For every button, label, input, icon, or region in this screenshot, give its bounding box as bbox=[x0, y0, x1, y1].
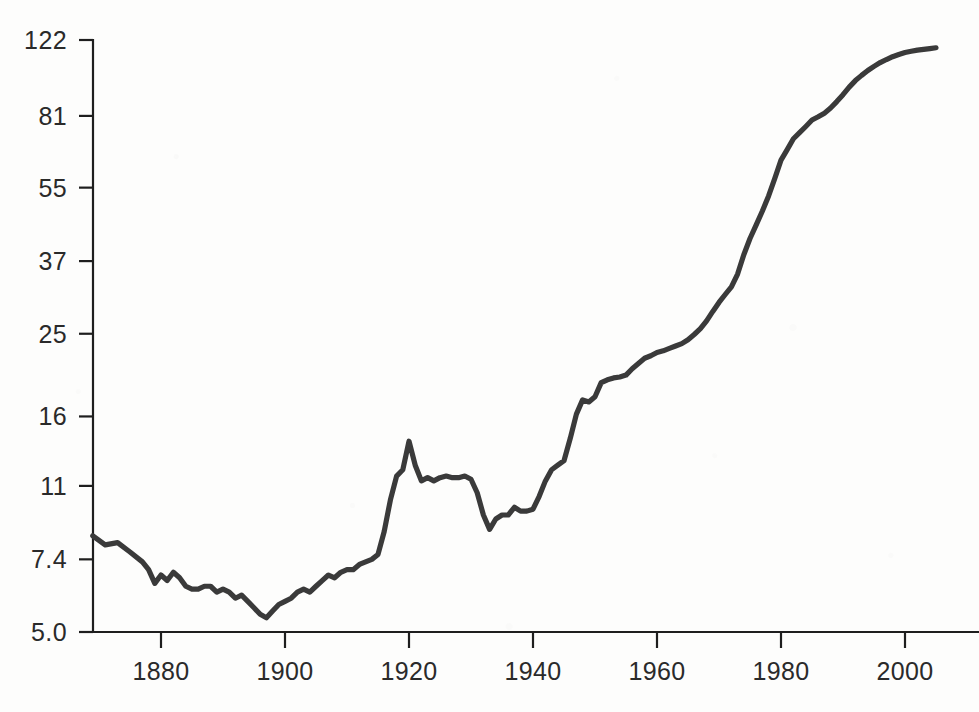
y-tick-label: 81 bbox=[38, 102, 67, 130]
chart-figure: 5.07.4111625375581122 188019001920194019… bbox=[0, 0, 979, 712]
x-tick-label: 1960 bbox=[628, 657, 685, 685]
y-tick-label: 11 bbox=[40, 472, 67, 500]
data-series-group bbox=[93, 48, 936, 618]
x-axis-ticks: 1880190019201940196019802000 bbox=[132, 632, 933, 685]
x-axis-group: 1880190019201940196019802000 bbox=[93, 632, 979, 685]
x-tick-label: 2000 bbox=[876, 657, 933, 685]
y-tick-label: 55 bbox=[38, 174, 67, 202]
x-tick-label: 1980 bbox=[752, 657, 809, 685]
y-tick-label: 7.4 bbox=[31, 545, 67, 573]
y-tick-label: 16 bbox=[38, 402, 67, 430]
y-tick-label: 37 bbox=[38, 247, 67, 275]
x-tick-label: 1900 bbox=[256, 657, 313, 685]
series-line-1 bbox=[93, 48, 936, 618]
y-axis-ticks: 5.07.4111625375581122 bbox=[24, 26, 93, 646]
y-tick-label: 25 bbox=[38, 320, 67, 348]
x-tick-label: 1940 bbox=[504, 657, 561, 685]
y-tick-label: 122 bbox=[24, 26, 67, 54]
y-tick-label: 5.0 bbox=[31, 618, 67, 646]
line-chart-plot: 5.07.4111625375581122 188019001920194019… bbox=[0, 0, 979, 712]
y-axis-group: 5.07.4111625375581122 bbox=[24, 26, 93, 646]
x-tick-label: 1920 bbox=[380, 657, 437, 685]
x-tick-label: 1880 bbox=[132, 657, 189, 685]
